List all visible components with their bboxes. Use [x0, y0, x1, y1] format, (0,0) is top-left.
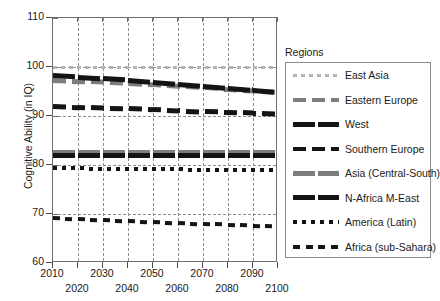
- x-tick-label-2040: 2040: [105, 283, 149, 294]
- x-tick-label-2030: 2030: [80, 268, 124, 279]
- x-tick-2040: [127, 262, 128, 268]
- series-segment: [203, 222, 210, 226]
- legend-swatch-icon: [293, 118, 339, 130]
- series-segment: [128, 219, 135, 223]
- legend-swatch-segment: [318, 195, 339, 200]
- x-tick-top-2080: [227, 17, 228, 22]
- x-tick-top-2100: [277, 17, 278, 22]
- legend-swatch-segment: [331, 245, 338, 249]
- legend-item-label: East Asia: [345, 69, 389, 81]
- series-segment: [228, 223, 235, 227]
- legend-swatch-segment: [301, 74, 305, 77]
- legend-item-label: N-Africa M-East: [345, 192, 419, 204]
- x-tick-top-2070: [202, 17, 203, 22]
- x-tick-top-2050: [152, 17, 153, 22]
- y-tick-label-80: 80: [4, 158, 44, 169]
- legend-swatch-segment: [338, 220, 339, 224]
- x-tick-2060: [177, 262, 178, 268]
- legend-swatch-segment: [311, 220, 315, 224]
- y-tick-label-110: 110: [4, 11, 44, 22]
- legend-swatch-segment: [320, 220, 324, 224]
- legend-swatch-icon: [293, 167, 339, 179]
- legend-swatch-icon: [293, 143, 339, 155]
- legend-item-america-latin[interactable]: America (Latin): [286, 210, 430, 234]
- series-segment: [78, 217, 85, 221]
- legend-swatch-segment: [318, 171, 339, 176]
- series-africa-sub-sahara: [53, 18, 276, 261]
- series-segment: [178, 221, 185, 225]
- x-tick-label-2070: 2070: [180, 268, 224, 279]
- series-segment: [265, 224, 272, 228]
- x-tick-top-2010: [52, 17, 53, 22]
- series-segment: [90, 218, 97, 222]
- legend-swatch-icon: [293, 216, 339, 228]
- x-tick-top-2030: [102, 17, 103, 22]
- legend-swatch-segment: [293, 171, 315, 176]
- x-tick-label-2020: 2020: [55, 283, 99, 294]
- x-tick-top-2040: [127, 17, 128, 22]
- legend-item-label: Southern Europe: [345, 143, 424, 155]
- series-segment: [153, 220, 160, 224]
- x-tick-label-2060: 2060: [155, 283, 199, 294]
- legend-item-eastern-europe[interactable]: Eastern Europe: [286, 88, 430, 112]
- legend-item-southern-europe[interactable]: Southern Europe: [286, 137, 430, 161]
- legend-box: East AsiaEastern EuropeWestSouthern Euro…: [285, 62, 431, 258]
- legend-swatch-icon: [293, 69, 339, 81]
- legend-item-label: Asia (Central-South): [345, 167, 440, 179]
- x-tick-label-2100: 2100: [255, 283, 299, 294]
- legend-item-label: Eastern Europe: [345, 94, 418, 106]
- x-tick-top-2020: [77, 17, 78, 22]
- legend-swatch-segment: [306, 245, 313, 249]
- series-segment: [253, 224, 260, 228]
- legend-swatch-segment: [333, 74, 337, 77]
- x-tick-top-2090: [252, 17, 253, 22]
- x-tick-2100: [277, 262, 278, 268]
- y-tick-label-100: 100: [4, 60, 44, 71]
- legend-item-n-africa-m-east[interactable]: N-Africa M-East: [286, 186, 430, 210]
- x-tick-label-2090: 2090: [230, 268, 274, 279]
- legend-swatch-segment: [302, 220, 306, 224]
- x-tick-label-2010: 2010: [30, 268, 74, 279]
- series-segment: [190, 222, 197, 226]
- x-tick-2080: [227, 262, 228, 268]
- legend-item-label: Africa (sub-Sahara): [345, 241, 436, 253]
- legend-title: Regions: [285, 46, 324, 58]
- legend-item-east-asia[interactable]: East Asia: [286, 63, 430, 87]
- series-segment: [115, 219, 122, 223]
- legend-swatch-segment: [312, 147, 325, 152]
- legend-swatch-segment: [309, 74, 313, 77]
- legend-swatch-segment: [293, 245, 300, 249]
- x-tick-label-2050: 2050: [130, 268, 174, 279]
- legend-swatch-segment: [312, 98, 325, 103]
- legend-swatch-segment: [318, 245, 325, 249]
- legend-item-asia-central-south[interactable]: Asia (Central-South): [286, 161, 430, 185]
- legend-swatch-segment: [293, 147, 306, 152]
- series-segment: [240, 223, 247, 227]
- x-tick-2020: [77, 262, 78, 268]
- legend-swatch-segment: [325, 74, 329, 77]
- legend-swatch-icon: [293, 192, 339, 204]
- y-tick-label-60: 60: [4, 256, 44, 267]
- legend-item-west[interactable]: West: [286, 112, 430, 136]
- series-segment: [53, 216, 60, 220]
- y-tick-label-90: 90: [4, 109, 44, 120]
- x-tick-top-2060: [177, 17, 178, 22]
- legend-swatch-segment: [318, 122, 339, 127]
- legend-item-label: America (Latin): [345, 216, 416, 228]
- legend-swatch-segment: [329, 220, 333, 224]
- legend-swatch-segment: [331, 147, 339, 152]
- legend-swatch-icon: [293, 241, 339, 253]
- series-segment: [140, 220, 147, 224]
- legend-item-label: West: [345, 118, 369, 130]
- legend-item-africa-sub-sahara[interactable]: Africa (sub-Sahara): [286, 235, 430, 259]
- legend-swatch-icon: [293, 94, 339, 106]
- series-segment: [103, 218, 110, 222]
- series-segment: [65, 217, 72, 221]
- legend-swatch-segment: [331, 98, 339, 103]
- legend-swatch-segment: [293, 195, 315, 200]
- legend-swatch-segment: [293, 220, 297, 224]
- legend-swatch-segment: [317, 74, 321, 77]
- y-tick-label-70: 70: [4, 207, 44, 218]
- legend-swatch-segment: [293, 74, 297, 77]
